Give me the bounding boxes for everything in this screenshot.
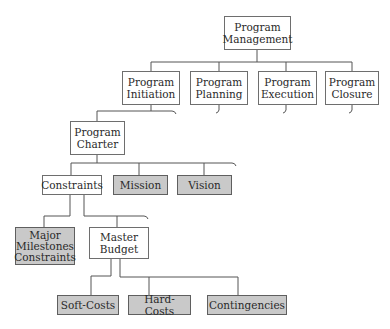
node-mission: Mission: [113, 175, 168, 195]
node-major-milestones-constraints: Major Milestones Constraints: [15, 227, 75, 265]
node-master-budget: Master Budget: [89, 227, 149, 259]
node-program-planning: Program Planning: [190, 71, 248, 105]
node-program-initiation: Program Initiation: [122, 71, 180, 105]
node-vision: Vision: [177, 175, 232, 195]
node-program-closure: Program Closure: [325, 71, 379, 105]
node-program-management: Program Management: [224, 16, 291, 50]
node-program-charter: Program Charter: [70, 121, 125, 155]
connector-lines: [0, 0, 390, 329]
node-soft-costs: Soft-Costs: [57, 295, 119, 315]
node-constraints: Constraints: [42, 175, 102, 195]
node-hard-costs: Hard-Costs: [128, 295, 191, 315]
node-program-execution: Program Execution: [258, 71, 317, 105]
node-contingencies: Contingencies: [207, 295, 287, 315]
